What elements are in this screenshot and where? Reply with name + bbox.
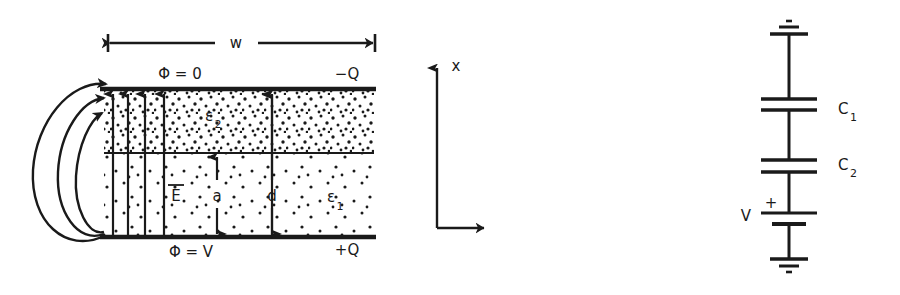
dimension-d-label: d — [267, 187, 277, 205]
svg-text:ε: ε — [327, 188, 335, 206]
source-voltage-label: V — [741, 207, 752, 225]
top-plate-charge-label: −Q — [335, 65, 359, 83]
ground-symbol-bottom — [770, 259, 808, 272]
dimension-a-label: a — [212, 187, 221, 205]
figure-canvas: w Φ = 0 −Q — [0, 0, 900, 295]
top-plate-potential-label: Φ = 0 — [158, 65, 201, 83]
capacitor-c2-subscript: 2 — [850, 167, 857, 180]
efield-label: E — [171, 187, 180, 205]
capacitor-c1-subscript: 1 — [850, 111, 857, 124]
voltage-source: + V — [741, 194, 817, 225]
capacitor-diagram: w Φ = 0 −Q — [33, 34, 376, 261]
capacitor-c1: C 1 — [761, 99, 857, 124]
width-label: w — [230, 34, 242, 52]
axes: x — [437, 57, 484, 229]
capacitor-c2-label: C — [838, 156, 848, 174]
circuit-diagram: C 1 C 2 + V — [741, 21, 857, 272]
bottom-plate-charge-label: +Q — [335, 241, 359, 259]
width-dimension: w — [108, 34, 375, 53]
svg-text:1: 1 — [337, 200, 344, 213]
capacitor-c2: C 2 — [761, 156, 857, 181]
axis-x-label: x — [452, 57, 461, 75]
svg-text:ε: ε — [205, 107, 213, 125]
source-polarity-label: + — [765, 194, 778, 212]
bottom-plate-potential-label: Φ = V — [169, 243, 214, 261]
svg-text:2: 2 — [215, 118, 222, 131]
capacitor-c1-label: C — [838, 100, 848, 118]
fringing-field-lines — [33, 84, 106, 241]
ground-symbol-top — [770, 21, 808, 34]
figure-root: w Φ = 0 −Q — [0, 0, 900, 295]
